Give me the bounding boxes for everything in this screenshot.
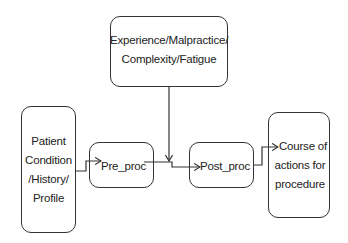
- node-post-proc-label: Post_proc: [200, 157, 254, 176]
- label-line: Patient: [21, 132, 76, 151]
- label-line: procedure: [268, 175, 332, 194]
- node-patient-label: Patient Condition /History/ Profile: [21, 132, 76, 208]
- node-course-label: Course of actions for procedure: [268, 137, 332, 194]
- label-line: Course of: [268, 137, 332, 156]
- label-line: Profile: [21, 189, 76, 208]
- node-pre-proc-label: Pre_proc: [101, 157, 147, 176]
- label-line: Condition: [21, 151, 76, 170]
- node-factors-label: Experience/Malpractice/ Complexity/Fatig…: [110, 31, 228, 69]
- label-line: /History/: [21, 170, 76, 189]
- label-line: Experience/Malpractice/: [110, 31, 228, 50]
- label-line: Complexity/Fatigue: [110, 50, 228, 69]
- label-line: actions for: [268, 156, 332, 175]
